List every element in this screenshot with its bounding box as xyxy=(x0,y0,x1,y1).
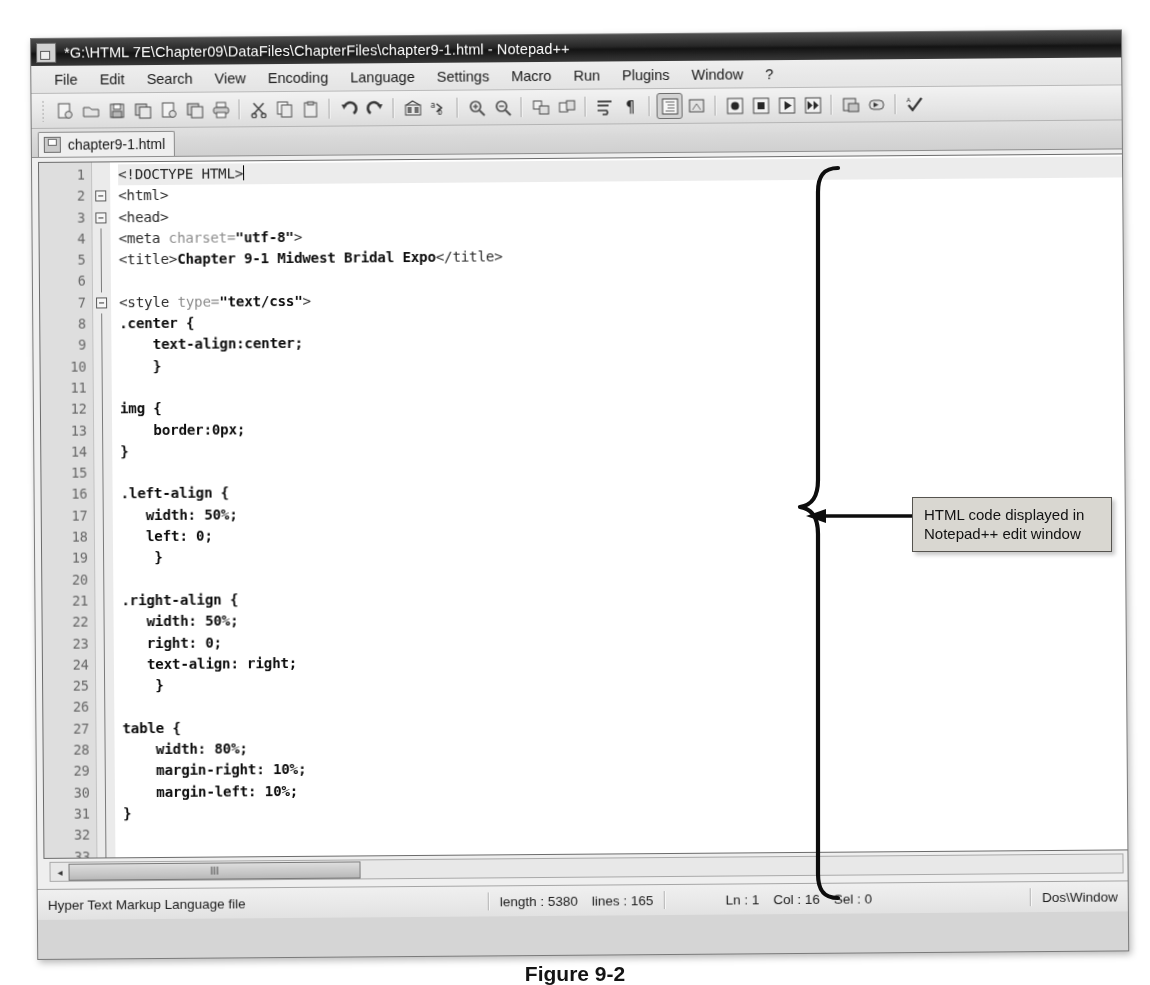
code-token: <meta xyxy=(119,230,169,246)
word-wrap-icon[interactable] xyxy=(592,94,616,118)
line-number: 5 xyxy=(40,250,86,272)
zoom-in-icon[interactable] xyxy=(464,95,488,119)
line-number: 12 xyxy=(41,399,87,421)
fold-toggle-icon[interactable] xyxy=(93,292,111,313)
menu-item-macro[interactable]: Macro xyxy=(500,65,562,85)
toolbar-separator xyxy=(894,94,896,114)
toolbar-separator xyxy=(714,96,716,116)
toolbar-separator xyxy=(238,99,240,119)
code-token: width: 50%; xyxy=(121,506,238,523)
status-sel: Sel : 0 xyxy=(834,891,872,906)
menu-item-help[interactable]: ? xyxy=(754,64,784,84)
fold-guide xyxy=(94,377,112,398)
run-macro-multiple-icon[interactable] xyxy=(800,93,824,117)
toolbar-grip[interactable] xyxy=(41,100,45,122)
save-all-icon[interactable] xyxy=(130,98,154,122)
code-token: <head> xyxy=(118,209,168,225)
line-number: 15 xyxy=(41,463,87,485)
code-token: Chapter 9-1 Midwest Bridal Expo xyxy=(177,249,436,267)
copy-icon[interactable] xyxy=(272,97,296,121)
line-number: 14 xyxy=(41,441,87,463)
tab-chapter9-1-html[interactable]: chapter9-1.html xyxy=(38,131,175,157)
code-token: } xyxy=(120,358,162,374)
status-ln: Ln : 1 xyxy=(725,892,759,907)
find-icon[interactable] xyxy=(400,96,424,120)
cut-icon[interactable] xyxy=(246,97,270,121)
print-icon[interactable] xyxy=(208,97,232,121)
menu-item-run[interactable]: Run xyxy=(562,65,611,85)
fold-guide xyxy=(97,782,115,803)
redo-icon[interactable] xyxy=(362,96,386,120)
save-macro-icon[interactable] xyxy=(838,92,862,116)
code-token: <html> xyxy=(118,187,168,203)
menu-item-view[interactable]: View xyxy=(204,68,257,88)
menu-item-edit[interactable]: Edit xyxy=(89,69,136,89)
fold-toggle-icon[interactable] xyxy=(92,207,110,228)
horizontal-scrollbar[interactable]: ◂ III xyxy=(49,853,1123,881)
replace-icon[interactable]: ab xyxy=(426,96,450,120)
line-number: 20 xyxy=(42,569,88,591)
svg-text:¶: ¶ xyxy=(625,98,635,115)
open-file-icon[interactable] xyxy=(78,98,102,122)
play-macro-icon[interactable] xyxy=(774,93,798,117)
save-icon[interactable] xyxy=(104,98,128,122)
stop-recording-macro-icon[interactable] xyxy=(748,93,772,117)
line-number: 26 xyxy=(43,697,89,719)
toolbar-separator xyxy=(328,99,330,119)
code-token: width: 80%; xyxy=(123,740,248,757)
user-defined-dialog-icon[interactable] xyxy=(684,94,708,118)
menu-item-window[interactable]: Window xyxy=(681,64,755,85)
callout-line-1: HTML code displayed in xyxy=(924,505,1102,524)
zoom-out-icon[interactable] xyxy=(490,95,514,119)
undo-icon[interactable] xyxy=(336,96,360,120)
run-icon[interactable] xyxy=(864,92,888,116)
menu-item-search[interactable]: Search xyxy=(136,68,204,89)
code-token: } xyxy=(122,677,164,693)
scroll-left-arrow-icon[interactable]: ◂ xyxy=(50,863,68,881)
status-length: length : 5380 xyxy=(500,893,578,909)
menu-item-settings[interactable]: Settings xyxy=(426,66,501,87)
fold-guide xyxy=(95,526,113,547)
code-token: } xyxy=(123,805,131,821)
scrollbar-thumb[interactable]: III xyxy=(68,861,360,880)
status-length-lines: length : 5380 lines : 165 xyxy=(490,885,664,916)
line-number: 23 xyxy=(43,633,89,655)
line-number: 16 xyxy=(42,484,88,506)
line-number: 13 xyxy=(41,420,87,442)
code-token: .right-align { xyxy=(121,591,238,608)
menu-item-plugins[interactable]: Plugins xyxy=(611,64,681,85)
menu-item-encoding[interactable]: Encoding xyxy=(257,67,340,88)
notepad-plus-plus-icon xyxy=(36,42,56,62)
line-number: 25 xyxy=(43,676,89,698)
paste-icon[interactable] xyxy=(298,97,322,121)
fold-guide xyxy=(95,505,113,526)
close-file-icon[interactable] xyxy=(156,98,180,122)
line-number: 9 xyxy=(40,335,86,357)
close-all-icon[interactable] xyxy=(182,98,206,122)
fold-guide xyxy=(97,846,115,859)
figure-caption: Figure 9-2 xyxy=(0,962,1150,985)
fold-guide xyxy=(95,548,113,569)
status-eol-format: Dos\Window xyxy=(1032,881,1128,912)
code-token: text-align:center; xyxy=(119,335,303,352)
line-number: 29 xyxy=(44,761,90,783)
new-file-icon[interactable] xyxy=(52,99,76,123)
code-token: <!DOCTYPE HTML> xyxy=(118,165,243,182)
code-token: text-align: right; xyxy=(122,655,297,672)
line-number: 10 xyxy=(41,356,87,378)
show-all-characters-icon[interactable]: ¶ xyxy=(618,94,642,118)
record-macro-icon[interactable] xyxy=(722,93,746,117)
indent-guideline-icon[interactable] xyxy=(656,93,682,119)
code-token: } xyxy=(120,443,128,459)
fold-guide xyxy=(96,697,114,718)
code-token: margin-right: 10%; xyxy=(123,761,307,778)
code-token: .center { xyxy=(119,315,194,332)
svg-text:a: a xyxy=(430,100,435,109)
menu-item-file[interactable]: File xyxy=(43,69,89,89)
spell-check-icon[interactable]: A xyxy=(902,92,926,116)
sync-vertical-scroll-icon[interactable] xyxy=(528,95,552,119)
menu-item-language[interactable]: Language xyxy=(339,66,426,87)
sync-horizontal-scroll-icon[interactable] xyxy=(554,95,578,119)
toolbar-separator xyxy=(456,98,458,118)
fold-toggle-icon[interactable] xyxy=(92,186,110,207)
